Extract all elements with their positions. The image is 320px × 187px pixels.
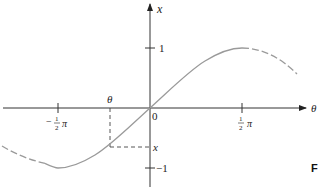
x-marker-label: x — [152, 141, 158, 153]
figure-caption-fragment: F — [311, 162, 318, 174]
svg-text:π: π — [247, 118, 253, 129]
svg-text:π: π — [62, 118, 68, 129]
tick-label-1: 1 — [159, 42, 165, 54]
sine-curve-dashed-left — [2, 146, 45, 163]
tick-label-half-pi: 1 2 π — [238, 115, 253, 132]
tick-label-minus-half-pi: − 1 2 π — [46, 115, 68, 132]
sine-graph: x θ 0 1 −1 − 1 2 π 1 2 π θ x F — [0, 0, 320, 187]
sine-curve-dashed-right — [242, 48, 297, 74]
svg-text:2: 2 — [239, 124, 243, 132]
x-axis-label: x — [156, 2, 163, 16]
origin-label: 0 — [152, 110, 158, 122]
svg-text:2: 2 — [55, 124, 59, 132]
theta-axis-label: θ — [311, 102, 317, 114]
theta-marker-label: θ — [107, 93, 113, 105]
svg-text:1: 1 — [239, 115, 243, 123]
svg-text:1: 1 — [55, 115, 59, 123]
svg-text:−: − — [46, 116, 52, 127]
tick-label-minus1: −1 — [156, 162, 168, 174]
